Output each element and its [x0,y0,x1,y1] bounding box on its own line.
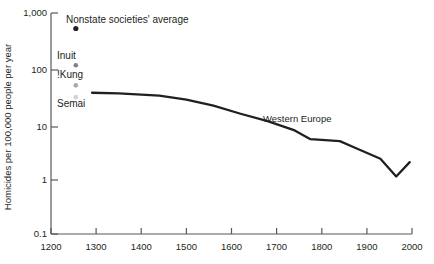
x-tick-label-1900: 1900 [356,241,377,252]
x-tick-label-1700: 1700 [266,241,287,252]
label-inuit: Inuit [57,50,76,61]
x-tick-label-1200: 1200 [40,241,61,252]
x-tick-label-1300: 1300 [86,241,107,252]
point-nonstate-societies-average [73,26,78,31]
y-axis-ticks [51,13,58,234]
y-tick-label-1000: 1,000 [23,7,47,18]
y-tick-label-100: 100 [31,64,47,75]
homicide-rate-chart: Homicides per 100,000 people per year 1,… [0,0,434,264]
point-inuit [74,63,79,68]
y-tick-label-1: 1 [42,174,47,185]
label-western-europe: Western Europe [263,113,331,124]
label-kung: !Kung [57,69,83,80]
x-tick-label-1600: 1600 [221,241,242,252]
label-semai: Semai [57,98,85,109]
x-tick-label-1800: 1800 [311,241,332,252]
x-tick-label-1500: 1500 [176,241,197,252]
x-tick-label-2000: 2000 [401,241,422,252]
y-tick-label-10: 10 [36,121,47,132]
x-axis-ticks [51,228,412,234]
label-nonstate-societies-average: Nonstate societies' average [66,14,189,25]
point-kung [74,83,79,88]
y-tick-label-0.1: 0.1 [34,228,47,239]
x-tick-label-1400: 1400 [131,241,152,252]
chart-container: Homicides per 100,000 people per year 1,… [0,0,434,264]
western-europe-line [92,93,410,177]
y-axis-title: Homicides per 100,000 people per year [2,44,13,210]
